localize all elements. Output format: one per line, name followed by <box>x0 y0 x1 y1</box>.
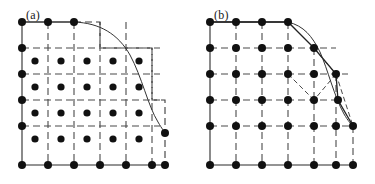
panel-a-domain-outline <box>22 22 165 165</box>
panel-a-plot <box>0 0 187 184</box>
figure-container: (a) <box>0 0 375 184</box>
panel-a-dashed-grid <box>22 22 160 165</box>
panel-b-plot <box>188 0 375 184</box>
panel-a-staircase-boundary <box>74 22 165 165</box>
panel-b-domain-outline <box>210 22 353 165</box>
panel-a-nodes <box>18 18 169 169</box>
panel-a: (a) <box>0 0 187 184</box>
panel-b: (b) <box>188 0 375 184</box>
panel-b-dashed-grid <box>210 22 353 165</box>
panel-a-curve <box>22 22 165 133</box>
panel-b-nodes <box>206 18 357 169</box>
